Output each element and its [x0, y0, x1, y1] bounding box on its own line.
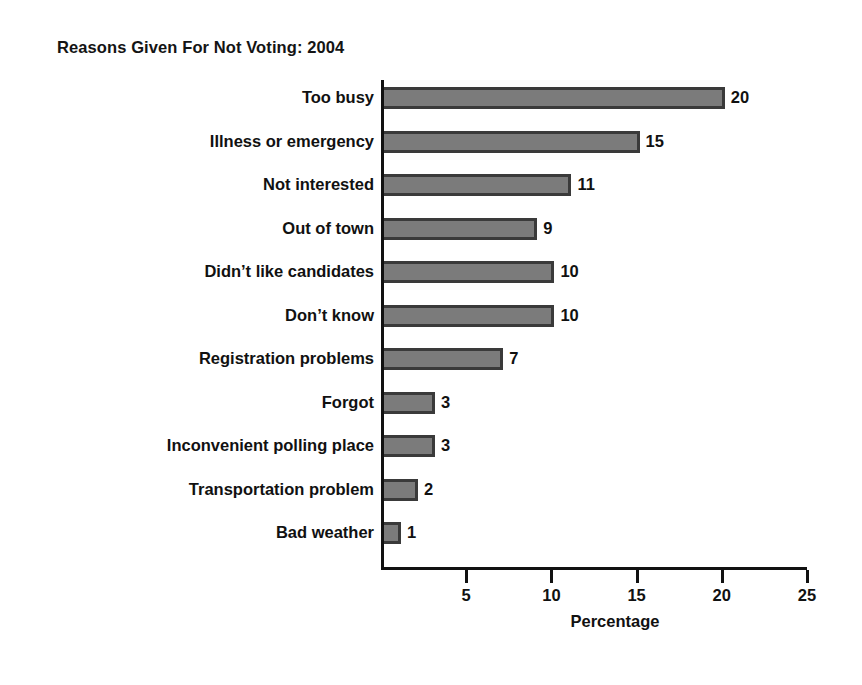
chart-title: Reasons Given For Not Voting: 2004 — [57, 38, 344, 57]
bar — [384, 261, 554, 283]
bar-value-label: 15 — [646, 132, 664, 151]
x-tick-mark — [721, 570, 724, 583]
category-label: Too busy — [0, 88, 374, 107]
category-label: Out of town — [0, 219, 374, 238]
x-tick-mark — [465, 570, 468, 583]
category-label: Forgot — [0, 393, 374, 412]
bar-value-label: 9 — [543, 219, 552, 238]
chart-page: Reasons Given For Not Voting: 2004 Too b… — [0, 0, 862, 685]
x-axis-title-label: Percentage — [571, 612, 660, 630]
bar-value-label: 10 — [560, 306, 578, 325]
x-axis-line — [381, 567, 807, 570]
x-tick-mark — [550, 570, 553, 583]
x-tick-label: 20 — [713, 586, 731, 605]
bar-value-label: 3 — [441, 393, 450, 412]
bar — [384, 131, 640, 153]
x-tick-label: 25 — [798, 586, 816, 605]
bar — [384, 392, 435, 414]
plot-area: 2015119101073321 510152025 — [381, 80, 807, 567]
bar-value-label: 10 — [560, 262, 578, 281]
bar — [384, 435, 435, 457]
category-label: Illness or emergency — [0, 132, 374, 151]
x-tick-label: 5 — [462, 586, 471, 605]
bar-value-label: 20 — [731, 88, 749, 107]
x-axis-title: Percentage — [0, 612, 862, 631]
category-label: Registration problems — [0, 349, 374, 368]
bar — [384, 522, 401, 544]
category-label: Transportation problem — [0, 480, 374, 499]
bar-value-label: 2 — [424, 480, 433, 499]
category-label: Not interested — [0, 175, 374, 194]
x-tick-label: 10 — [542, 586, 560, 605]
bar-value-label: 3 — [441, 436, 450, 455]
category-label: Bad weather — [0, 523, 374, 542]
category-label: Inconvenient polling place — [0, 436, 374, 455]
category-label: Didn’t like candidates — [0, 262, 374, 281]
x-tick-mark — [806, 570, 809, 583]
bar-value-label: 1 — [407, 523, 416, 542]
x-tick-label: 15 — [627, 586, 645, 605]
bar — [384, 305, 554, 327]
bar — [384, 174, 571, 196]
bar-value-label: 7 — [509, 349, 518, 368]
category-label: Don’t know — [0, 306, 374, 325]
bar — [384, 479, 418, 501]
bar-value-label: 11 — [577, 175, 594, 194]
bar — [384, 348, 503, 370]
x-tick-mark — [636, 570, 639, 583]
bar — [384, 218, 537, 240]
bar — [384, 87, 725, 109]
